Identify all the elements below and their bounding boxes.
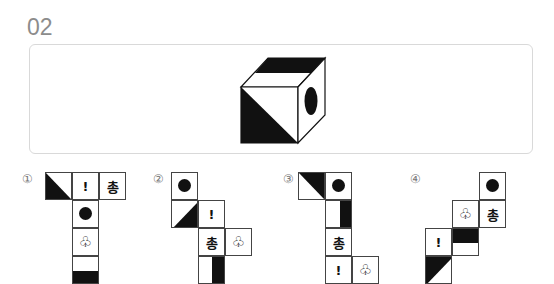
net-face-circle bbox=[479, 172, 506, 200]
net-face-diagonal bbox=[45, 172, 72, 200]
net-face-diagonal bbox=[298, 172, 325, 200]
net-face-half-black bbox=[325, 200, 352, 228]
net-face-chong: 총 bbox=[325, 228, 352, 256]
option-3-label: ③ bbox=[283, 172, 294, 186]
net-face-club: ♧ bbox=[72, 228, 99, 256]
net-face-club: ♧ bbox=[452, 200, 479, 228]
net-face-circle bbox=[325, 172, 352, 200]
circle-icon bbox=[486, 179, 499, 192]
net-face-club: ♧ bbox=[352, 256, 379, 284]
net-face-circle bbox=[171, 172, 198, 200]
net-face-chong: 총 bbox=[479, 200, 506, 228]
net-face-club: ♧ bbox=[225, 228, 252, 256]
circle-icon bbox=[332, 179, 345, 192]
option-4-label: ④ bbox=[410, 172, 421, 186]
net-face-exclamation: ! bbox=[325, 256, 352, 284]
net-face-half-black bbox=[72, 256, 99, 284]
circle-icon bbox=[178, 179, 191, 192]
net-face-diagonal bbox=[425, 256, 452, 284]
net-face-diagonal bbox=[171, 200, 198, 228]
option-1-label: ① bbox=[22, 172, 33, 186]
net-face-circle bbox=[72, 200, 99, 228]
option-2-label: ② bbox=[153, 172, 164, 186]
net-face-exclamation: ! bbox=[198, 200, 225, 228]
net-face-chong: 총 bbox=[198, 228, 225, 256]
net-face-half-black bbox=[198, 256, 225, 284]
net-face-half-black bbox=[452, 228, 479, 256]
circle-icon bbox=[79, 207, 92, 220]
net-face-exclamation: ! bbox=[72, 172, 99, 200]
net-face-exclamation: ! bbox=[425, 228, 452, 256]
net-face-chong: 총 bbox=[99, 172, 126, 200]
